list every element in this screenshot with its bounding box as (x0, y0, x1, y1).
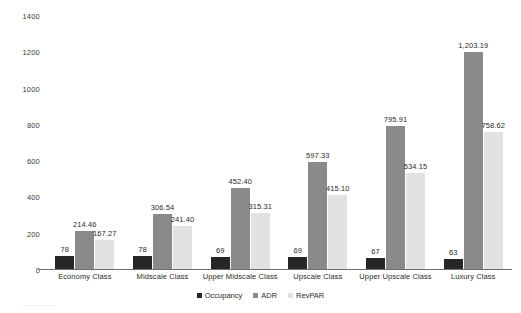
bar-group: 78214.46167.27 (46, 16, 124, 270)
x-axis-line (38, 269, 512, 270)
bar-adr: 452.40 (231, 188, 250, 270)
bar-value-label: 1,203.19 (458, 41, 488, 50)
bar-value-label: 78 (61, 245, 70, 254)
bar-revpar: 415.10 (328, 195, 347, 270)
legend-item-occupancy[interactable]: Occupancy (197, 291, 243, 300)
bar-chart: 0200400600800100012001400 78214.46167.27… (0, 0, 521, 313)
bar-value-label: 795.91 (384, 115, 408, 124)
bar-group: 631,203.19758.62 (434, 16, 512, 270)
bar-adr: 597.33 (308, 162, 327, 270)
bar-revpar: 315.31 (251, 213, 270, 270)
y-axis-tick-label: 600 (27, 157, 40, 166)
x-axis-category-label: Upper Upscale Class (357, 272, 435, 281)
bar-value-label: 415.10 (326, 184, 350, 193)
y-axis-tick-label: 200 (27, 229, 40, 238)
bar-adr: 214.46 (75, 231, 94, 270)
bar-group: 69597.33415.10 (279, 16, 357, 270)
bar-group: 78306.54241.40 (124, 16, 202, 270)
bar-adr: 306.54 (153, 214, 172, 270)
bar-value-label: 597.33 (306, 151, 330, 160)
y-axis-tick-label: 1000 (23, 84, 41, 93)
bar-value-label: 69 (216, 246, 225, 255)
chart-legend: OccupancyADRRevPAR (0, 291, 521, 300)
bar-occupancy: 78 (133, 256, 152, 270)
bar-adr: 1,203.19 (464, 52, 483, 270)
bar-value-label: 306.54 (151, 203, 175, 212)
bar-value-label: 241.40 (171, 215, 195, 224)
bar-value-label: 63 (449, 248, 458, 257)
bar-value-label: 534.15 (404, 162, 428, 171)
legend-item-adr[interactable]: ADR (253, 291, 277, 300)
y-axis-tick-label: 1400 (23, 12, 41, 21)
x-axis-category-label: Midscale Class (124, 272, 202, 281)
scan-artifact (22, 305, 56, 306)
category-labels: Economy ClassMidscale ClassUpper Midscal… (46, 272, 512, 281)
legend-label: Occupancy (205, 291, 243, 300)
legend-swatch-icon (253, 293, 258, 298)
x-axis-category-label: Upper Midscale Class (201, 272, 279, 281)
y-axis-tick-label: 400 (27, 193, 40, 202)
y-axis-tick-label: 1200 (23, 48, 41, 57)
bar-revpar: 167.27 (95, 240, 114, 270)
plot-area: 0200400600800100012001400 78214.46167.27… (46, 16, 512, 270)
x-axis-category-label: Luxury Class (434, 272, 512, 281)
legend-label: RevPAR (296, 291, 324, 300)
bar-value-label: 69 (294, 246, 303, 255)
legend-swatch-icon (197, 293, 202, 298)
bar-value-label: 67 (371, 247, 380, 256)
legend-swatch-icon (288, 293, 293, 298)
y-axis-tick-label: 0 (36, 266, 40, 275)
bar-revpar: 534.15 (406, 173, 425, 270)
bar-groups: 78214.46167.2778306.54241.4069452.40315.… (46, 16, 512, 270)
legend-item-revpar[interactable]: RevPAR (288, 291, 324, 300)
bar-group: 69452.40315.31 (201, 16, 279, 270)
legend-label: ADR (261, 291, 277, 300)
bar-value-label: 315.31 (248, 202, 272, 211)
bar-revpar: 758.62 (484, 132, 503, 270)
bar-revpar: 241.40 (173, 226, 192, 270)
bar-adr: 795.91 (386, 126, 405, 270)
bar-value-label: 758.62 (481, 121, 505, 130)
x-axis-category-label: Economy Class (46, 272, 124, 281)
bar-occupancy: 78 (55, 256, 74, 270)
bar-group: 67795.91534.15 (357, 16, 435, 270)
bar-value-label: 452.40 (228, 177, 252, 186)
bar-value-label: 167.27 (93, 229, 117, 238)
x-axis-category-label: Upscale Class (279, 272, 357, 281)
bar-value-label: 78 (138, 245, 147, 254)
y-axis-tick-label: 800 (27, 120, 40, 129)
